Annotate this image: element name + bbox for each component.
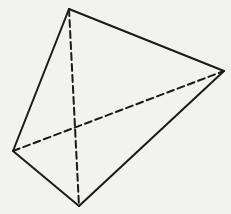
dashed-edge-AD: [69, 9, 79, 206]
solid-edges: [13, 9, 224, 206]
solid-edge-BD: [79, 71, 224, 206]
dashed-edge-CB: [13, 71, 224, 151]
solid-edge-CA: [13, 9, 69, 151]
solid-edge-DC: [13, 151, 79, 206]
tetrahedron-figure: [0, 0, 231, 214]
tetrahedron-diagram: [0, 0, 231, 214]
solid-edge-AB: [69, 9, 224, 71]
